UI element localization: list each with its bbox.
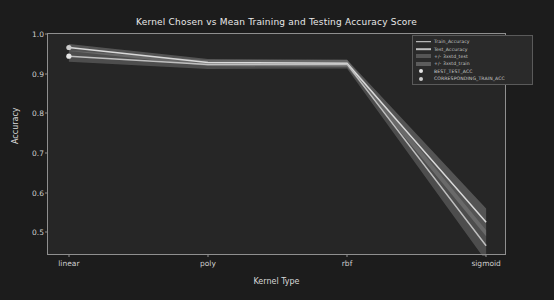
- figure-canvas: Kernel Chosen vs Mean Training and Testi…: [0, 0, 554, 300]
- legend-item: +/- 3xstd_test: [416, 53, 529, 60]
- legend-key-train-accuracy: [416, 38, 431, 45]
- x-axis-tick-label: poly: [200, 259, 216, 268]
- x-axis-tick-label: linear: [58, 259, 79, 268]
- legend-key-corresponding-train-acc-marker: [416, 75, 431, 82]
- legend-label: Test_Accuracy: [434, 47, 468, 52]
- highlight-marker: [66, 45, 71, 50]
- legend-key-std-train-band: [416, 60, 431, 67]
- x-axis-tick-label: rbf: [342, 259, 353, 268]
- legend-item: CORRESPONDING_TRAIN_ACC: [416, 75, 529, 82]
- chart-legend: Train_Accuracy Test_Accuracy +/- 3xstd_t…: [412, 35, 533, 85]
- y-axis-tick-mark: [45, 192, 48, 193]
- y-axis-tick-label: 0.9: [32, 69, 44, 78]
- legend-item: +/- 3xstd_train: [416, 60, 529, 67]
- x-axis-tick-mark: [207, 254, 208, 257]
- y-axis-tick-label: 0.7: [32, 148, 44, 157]
- y-axis-tick-mark: [45, 152, 48, 153]
- y-axis-tick-label: 1.0: [32, 30, 44, 39]
- y-axis-tick-label: 0.8: [32, 109, 44, 118]
- legend-label: +/- 3xstd_test: [434, 54, 468, 59]
- legend-label: CORRESPONDING_TRAIN_ACC: [434, 76, 505, 81]
- legend-label: Train_Accuracy: [434, 39, 470, 44]
- legend-label: +/- 3xstd_train: [434, 61, 470, 66]
- y-axis-tick-mark: [45, 113, 48, 114]
- x-axis-tick-mark: [486, 254, 487, 257]
- legend-key-test-accuracy: [416, 46, 431, 53]
- y-axis-tick-mark: [45, 232, 48, 233]
- legend-key-std-test-band: [416, 53, 431, 60]
- y-axis-label: Accuracy: [11, 107, 20, 144]
- chart-title: Kernel Chosen vs Mean Training and Testi…: [47, 17, 506, 27]
- x-axis-tick-mark: [347, 254, 348, 257]
- legend-key-best-test-acc-marker: [416, 68, 431, 75]
- legend-item: BEST_TEST_ACC: [416, 68, 529, 75]
- x-axis-label: Kernel Type: [47, 277, 506, 286]
- highlight-marker: [66, 54, 71, 59]
- y-axis-tick-label: 0.6: [32, 188, 44, 197]
- x-axis-tick-label: sigmoid: [471, 259, 501, 268]
- y-axis-tick-label: 0.5: [32, 228, 44, 237]
- y-axis-tick-mark: [45, 34, 48, 35]
- x-axis-tick-mark: [68, 254, 69, 257]
- legend-item: Train_Accuracy: [416, 38, 529, 45]
- legend-item: Test_Accuracy: [416, 45, 529, 52]
- legend-label: BEST_TEST_ACC: [434, 69, 473, 74]
- y-axis-tick-mark: [45, 73, 48, 74]
